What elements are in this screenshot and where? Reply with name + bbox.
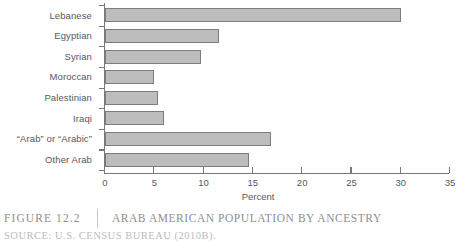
bar-row	[105, 88, 450, 109]
y-tick-3	[99, 67, 104, 68]
x-tick-label-5: 5	[152, 177, 157, 188]
y-tick-6	[99, 129, 104, 130]
bar-palestinian	[105, 91, 158, 105]
x-tick-label-30: 30	[395, 177, 406, 188]
y-axis-label-egyptian: Egyptian	[0, 26, 98, 47]
y-tick-7	[99, 149, 104, 150]
x-tick-0	[104, 167, 105, 173]
x-tick-25	[350, 167, 351, 173]
bar-arab-or-arabic	[105, 132, 271, 146]
y-axis-label-syrian: Syrian	[0, 46, 98, 67]
x-tick-label-0: 0	[102, 177, 107, 188]
x-tick-20	[301, 167, 302, 173]
chart-plot-area: Lebanese Egyptian Syrian Moroccan Palest…	[0, 0, 456, 205]
x-tick-5	[153, 167, 154, 173]
figure-caption: Figure 12.2 Arab American Population by …	[4, 208, 452, 228]
y-tick-1	[99, 26, 104, 27]
x-tick-10	[203, 167, 204, 173]
y-tick-2	[99, 46, 104, 47]
figure-source-row: Source: U.S. Census Bureau (2010b).	[4, 230, 452, 242]
y-tick-4	[99, 88, 104, 89]
bar-other-arab	[105, 153, 249, 167]
y-axis-category-labels: Lebanese Egyptian Syrian Moroccan Palest…	[0, 5, 98, 170]
y-axis-label-iraqi: Iraqi	[0, 108, 98, 129]
bar-row	[105, 129, 450, 150]
figure-source: Source: U.S. Census Bureau (2010b).	[4, 230, 452, 241]
figure-title: Arab American Population by Ancestry	[112, 212, 382, 224]
bar-syrian	[105, 50, 201, 64]
y-tick-0	[99, 5, 104, 6]
bar-egyptian	[105, 29, 219, 43]
bar-lebanese	[105, 8, 401, 22]
x-tick-label-20: 20	[297, 177, 308, 188]
bar-row	[105, 67, 450, 88]
x-tick-label-25: 25	[346, 177, 357, 188]
y-axis-label-palestinian: Palestinian	[0, 88, 98, 109]
bar-row	[105, 46, 450, 67]
y-axis-label-other-arab: Other Arab	[0, 149, 98, 170]
bar-row	[105, 5, 450, 26]
x-axis-line	[104, 173, 449, 174]
x-tick-label-15: 15	[248, 177, 259, 188]
x-tick-30	[400, 167, 401, 173]
y-axis-label-moroccan: Moroccan	[0, 67, 98, 88]
y-tick-5	[99, 108, 104, 109]
bar-series	[105, 5, 450, 170]
x-axis-title: Percent	[0, 191, 456, 202]
bar-row	[105, 149, 450, 170]
y-axis-label-lebanese: Lebanese	[0, 5, 98, 26]
bar-row	[105, 26, 450, 47]
y-axis-label-arab-or-arabic: “Arab” or “Arabic”	[0, 129, 98, 150]
x-axis-title-text: Percent	[242, 191, 275, 202]
bar-row	[105, 108, 450, 129]
figure-number: Figure 12.2	[4, 212, 81, 224]
x-tick-35	[449, 167, 450, 173]
x-tick-label-10: 10	[198, 177, 209, 188]
bar-iraqi	[105, 111, 164, 125]
figure-container: Lebanese Egyptian Syrian Moroccan Palest…	[0, 0, 456, 242]
caption-divider	[97, 209, 98, 228]
bar-moroccan	[105, 70, 154, 84]
x-tick-15	[252, 167, 253, 173]
x-tick-label-35: 35	[445, 177, 456, 188]
